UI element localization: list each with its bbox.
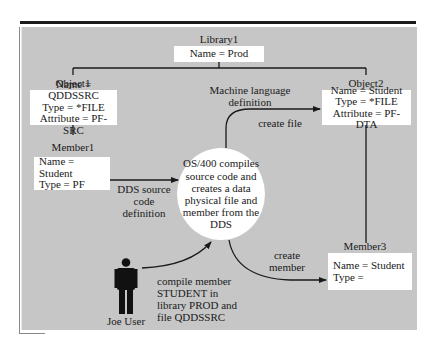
member3-box: Name = Student Type = [328,253,412,290]
label-machine-language: Machine language definition [205,84,295,108]
member3-name: Name = Student [333,260,412,272]
object2-box: Name = Student Type = *FILE Attribute = … [322,90,411,125]
label-dds-source: DDS source code definition [112,183,176,219]
os400-process-circle: OS/400 compiles source code and creates … [177,148,265,240]
object1-attribute: Attribute = PF-SRC [30,113,117,136]
actor-name: Joe User [101,315,151,327]
member1-name: Name = Student [39,156,110,179]
library-box: Name = Prod [174,46,264,62]
member1-type: Type = PF [39,179,110,191]
process-text: OS/400 compiles source code and creates … [179,157,263,230]
label-create-file: create file [250,117,310,129]
object1-name: Name = QDDSSRC [30,79,117,102]
label-compile-member: compile member STUDENT in library PROD a… [157,275,242,323]
member3-title: Member3 [335,240,395,252]
person-icon [114,258,138,314]
member3-type: Type = [333,272,412,284]
library-name: Name = Prod [174,48,264,60]
member1-title: Member1 [43,141,103,153]
label-create-member: create member [262,249,312,273]
library-title: Library1 [189,33,249,45]
member1-box: Name = Student Type = PF [34,157,110,190]
object2-attribute: Attribute = PF-DTA [322,108,411,131]
object1-box: Name = QDDSSRC Type = *FILE Attribute = … [30,90,117,125]
object2-type: Type = *FILE [322,96,411,108]
